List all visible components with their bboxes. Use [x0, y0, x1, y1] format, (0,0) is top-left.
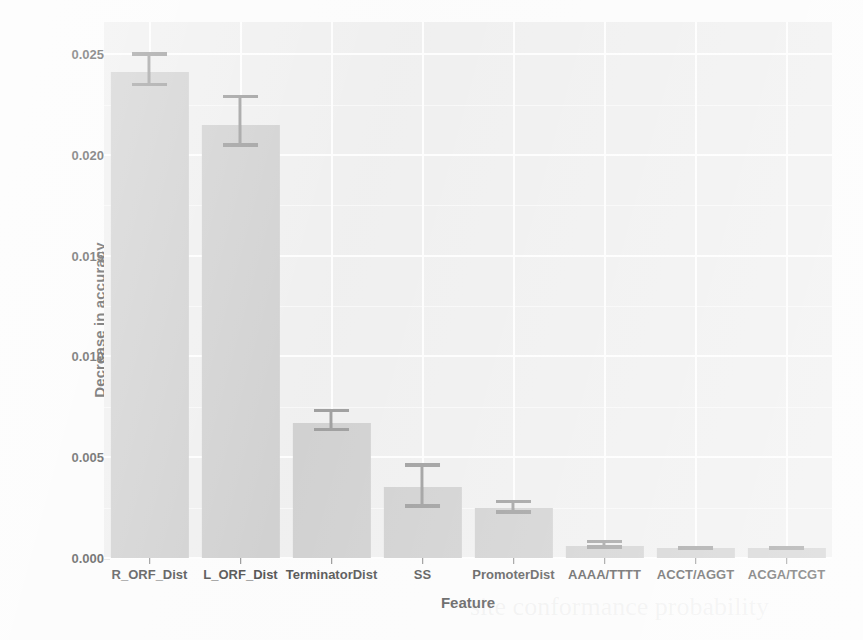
errorbar-r-orf-dist [132, 52, 168, 86]
y-tick-label: 0.025 [38, 47, 104, 62]
x-tick-mark [149, 558, 151, 564]
x-tick-mark [331, 558, 333, 564]
errorbar-line [421, 463, 424, 507]
errorbar-cap-top [132, 52, 168, 56]
bar-promoterdist [474, 508, 552, 558]
bar-r-orf-dist [110, 72, 188, 558]
x-tick-label: ACCT/AGGT [657, 567, 734, 582]
errorbar-line [148, 52, 151, 86]
errorbar-cap-bottom [587, 545, 623, 549]
gridline-vertical [786, 22, 788, 558]
errorbar-cap-top [314, 409, 350, 413]
bar-l-orf-dist [201, 125, 279, 558]
errorbar-acct-aggt [678, 546, 714, 550]
x-tick-label: R_ORF_Dist [112, 567, 188, 582]
bar-terminatordist [292, 423, 370, 558]
errorbar-cap-top [496, 500, 532, 504]
errorbar-promoterdist [496, 500, 532, 514]
y-tick-label: 0.010 [38, 349, 104, 364]
errorbar-cap-top [587, 540, 623, 544]
errorbar-ss [405, 463, 441, 507]
x-tick-label: L_ORF_Dist [203, 567, 277, 582]
errorbar-cap-bottom [314, 428, 350, 432]
chart-figure: site conformance probability Decrease in… [0, 0, 863, 640]
gridline-vertical [695, 22, 697, 558]
errorbar-line [239, 95, 242, 147]
x-tick-mark [422, 558, 424, 564]
x-tick-mark [513, 558, 515, 564]
gridline-vertical [604, 22, 606, 558]
errorbar-cap-top [405, 463, 441, 467]
y-tick-label: 0.000 [38, 551, 104, 566]
x-tick-mark [695, 558, 697, 564]
x-tick-mark [240, 558, 242, 564]
x-tick-label: PromoterDist [472, 567, 554, 582]
errorbar-aaaa-tttt [587, 540, 623, 549]
errorbar-cap-bottom [769, 546, 805, 550]
errorbar-cap-top [223, 95, 259, 99]
y-tick-label: 0.020 [38, 147, 104, 162]
errorbar-terminatordist [314, 409, 350, 431]
y-axis: 0.0000.0050.0100.0150.0200.025 [30, 0, 104, 640]
errorbar-acga-tcgt [769, 546, 805, 550]
gridline-horizontal-minor [104, 105, 832, 106]
errorbar-cap-bottom [132, 83, 168, 87]
x-tick-label: ACGA/TCGT [748, 567, 825, 582]
x-axis: R_ORF_DistL_ORF_DistTerminatorDistSSProm… [104, 558, 832, 598]
plot-panel [104, 22, 832, 558]
errorbar-l-orf-dist [223, 95, 259, 147]
x-tick-label: AAAA/TTTT [568, 567, 641, 582]
errorbar-cap-bottom [496, 510, 532, 514]
x-tick-label: SS [414, 567, 431, 582]
x-tick-mark [604, 558, 606, 564]
gridline-horizontal [104, 53, 832, 55]
x-axis-title: Feature [104, 594, 832, 611]
errorbar-cap-bottom [223, 143, 259, 147]
errorbar-cap-bottom [405, 504, 441, 508]
errorbar-cap-bottom [678, 546, 714, 550]
y-tick-label: 0.015 [38, 248, 104, 263]
y-tick-label: 0.005 [38, 450, 104, 465]
x-tick-mark [786, 558, 788, 564]
x-tick-label: TerminatorDist [286, 567, 378, 582]
gridline-vertical [513, 22, 515, 558]
